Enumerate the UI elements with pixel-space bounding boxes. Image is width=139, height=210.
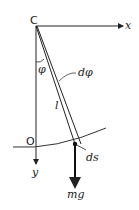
diagram-canvas: C x O y φ dφ l ds mg [0, 0, 139, 210]
angle-arc-icon [36, 59, 44, 62]
label-x: x [125, 19, 132, 32]
label-mg: mg [67, 188, 84, 201]
label-phi: φ [38, 63, 46, 76]
pendulum-string-displaced [37, 26, 81, 144]
label-y: y [31, 166, 39, 179]
dphi-leader [59, 73, 76, 81]
label-l: l [55, 99, 59, 112]
pendulum-diagram: C x O y φ dφ l ds mg [0, 0, 139, 210]
pendulum-string [36, 26, 75, 144]
label-O: O [26, 135, 35, 148]
label-dphi: dφ [78, 66, 93, 79]
label-C: C [30, 14, 38, 27]
label-ds: ds [86, 151, 99, 164]
